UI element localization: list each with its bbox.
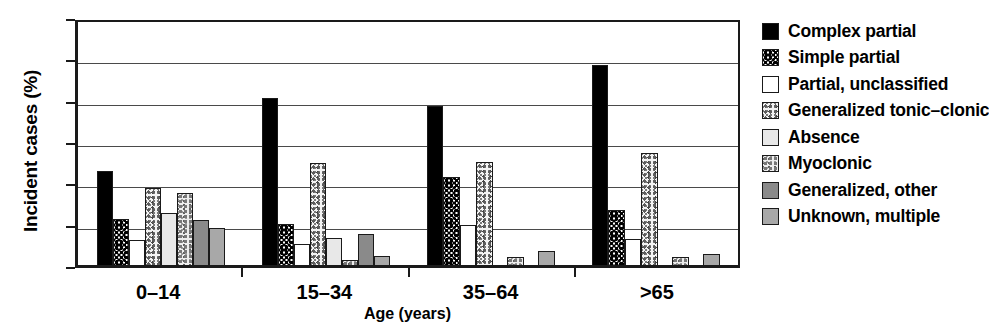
bar bbox=[703, 254, 720, 265]
legend-item: Unknown, multiple bbox=[762, 204, 989, 231]
x-group-label: >65 bbox=[574, 281, 740, 304]
legend-label: Generalized tonic–clonic bbox=[788, 100, 989, 121]
legend-item: Simple partial bbox=[762, 45, 989, 72]
bar-group bbox=[243, 22, 408, 265]
plot-area bbox=[75, 20, 740, 268]
bar bbox=[641, 153, 658, 265]
y-tick-mark bbox=[66, 184, 75, 186]
bar bbox=[460, 225, 477, 265]
bar bbox=[342, 260, 358, 265]
bar bbox=[358, 234, 374, 265]
x-group-label: 0–14 bbox=[75, 281, 241, 304]
bar bbox=[193, 220, 209, 265]
bar bbox=[161, 213, 177, 265]
y-axis-title: Incident cases (%) bbox=[20, 36, 42, 266]
y-tick-mark bbox=[66, 226, 75, 228]
bar bbox=[113, 219, 129, 265]
bar bbox=[443, 177, 460, 265]
x-axis-title: Age (years) bbox=[75, 305, 740, 323]
legend-item: Myoclonic bbox=[762, 151, 989, 178]
bar bbox=[507, 257, 524, 265]
legend-swatch-icon bbox=[762, 182, 779, 199]
bar bbox=[625, 239, 642, 265]
bar bbox=[209, 228, 225, 265]
bar-set bbox=[427, 22, 555, 265]
y-tick-mark bbox=[66, 143, 75, 145]
legend-item: Partial, unclassified bbox=[762, 71, 989, 98]
bar bbox=[294, 244, 310, 265]
bar bbox=[538, 251, 555, 265]
bar bbox=[97, 171, 113, 265]
chart-legend: Complex partialSimple partialPartial, un… bbox=[762, 18, 989, 230]
x-tick-mark bbox=[408, 268, 410, 277]
legend-swatch-icon bbox=[762, 129, 779, 146]
bar-set bbox=[97, 22, 225, 265]
bar-group bbox=[78, 22, 243, 265]
bar bbox=[374, 256, 390, 265]
bar bbox=[592, 65, 609, 265]
bar bbox=[278, 224, 294, 265]
y-tick-mark bbox=[66, 19, 75, 21]
x-axis-group-labels: 0–1415–3435–64>65 bbox=[75, 281, 740, 304]
y-tick-mark bbox=[66, 267, 75, 269]
legend-label: Absence bbox=[788, 127, 860, 148]
bar-group bbox=[573, 22, 738, 265]
legend-label: Partial, unclassified bbox=[788, 74, 948, 95]
legend-item: Generalized tonic–clonic bbox=[762, 98, 989, 125]
legend-label: Unknown, multiple bbox=[788, 206, 940, 227]
bar-set bbox=[262, 22, 390, 265]
bar bbox=[427, 106, 444, 265]
legend-swatch-icon bbox=[762, 155, 779, 172]
bar bbox=[476, 162, 493, 265]
bar bbox=[310, 163, 326, 265]
legend-swatch-icon bbox=[762, 49, 779, 66]
legend-swatch-icon bbox=[762, 208, 779, 225]
bar bbox=[177, 193, 193, 265]
x-group-label: 15–34 bbox=[241, 281, 407, 304]
legend-item: Absence bbox=[762, 124, 989, 151]
legend-item: Complex partial bbox=[762, 18, 989, 45]
bar bbox=[608, 210, 625, 265]
bar-group bbox=[408, 22, 573, 265]
legend-swatch-icon bbox=[762, 102, 779, 119]
bar bbox=[672, 257, 689, 265]
x-tick-mark bbox=[241, 268, 243, 277]
legend-label: Myoclonic bbox=[788, 153, 872, 174]
bar bbox=[145, 188, 161, 265]
legend-swatch-icon bbox=[762, 23, 779, 40]
y-tick-mark bbox=[66, 60, 75, 62]
legend-label: Generalized, other bbox=[788, 180, 937, 201]
x-tick-mark bbox=[574, 268, 576, 277]
legend-swatch-icon bbox=[762, 76, 779, 93]
bar-groups bbox=[78, 22, 738, 265]
bar-set bbox=[592, 22, 720, 265]
legend-item: Generalized, other bbox=[762, 177, 989, 204]
y-tick-mark bbox=[66, 102, 75, 104]
bar bbox=[326, 238, 342, 265]
legend-label: Simple partial bbox=[788, 47, 900, 68]
bar bbox=[129, 240, 145, 265]
x-group-label: 35–64 bbox=[408, 281, 574, 304]
legend-label: Complex partial bbox=[788, 21, 916, 42]
bar bbox=[262, 98, 278, 265]
